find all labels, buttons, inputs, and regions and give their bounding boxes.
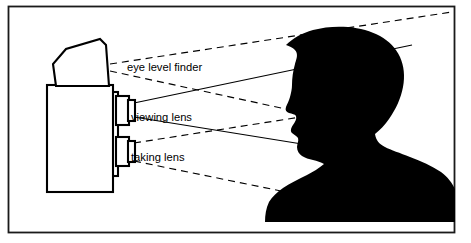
camera-body [47,85,113,192]
label-viewing-lens: viewing lens [131,111,192,123]
label-taking-lens: taking lens [131,151,185,163]
label-eye-level-finder: eye level finder [127,61,203,73]
camera-diagram-svg: eye level finder viewing lens taking len… [0,0,471,243]
figure-root: eye level finder viewing lens taking len… [0,0,471,243]
